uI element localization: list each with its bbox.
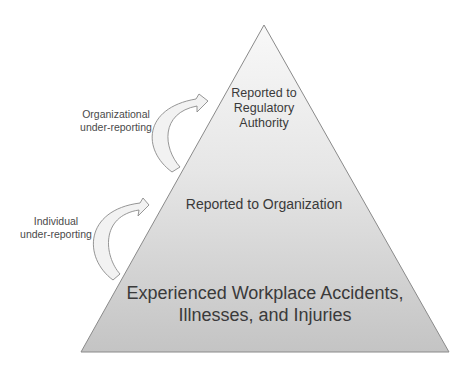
arrow-individual-line-1: Individual xyxy=(16,215,96,228)
tier-label-regulatory: Reported to Regulatory Authority xyxy=(214,86,314,131)
tier-regulatory-line-1: Reported to xyxy=(214,86,314,101)
arrow-label-individual: Individual under-reporting xyxy=(16,215,96,241)
tier-label-organization: Reported to Organization xyxy=(164,196,364,213)
arrow-organizational-line-1: Organizational xyxy=(74,108,158,121)
tier-experienced-line-1: Experienced Workplace Accidents, xyxy=(120,282,410,304)
tier-regulatory-line-2: Regulatory xyxy=(214,101,314,116)
diagram-canvas: Reported to Regulatory Authority Reporte… xyxy=(0,0,465,370)
arrow-individual-line-2: under-reporting xyxy=(16,228,96,241)
tier-organization-line-1: Reported to Organization xyxy=(164,196,364,213)
arrow-label-organizational: Organizational under-reporting xyxy=(74,108,158,134)
tier-label-experienced: Experienced Workplace Accidents, Illness… xyxy=(120,282,410,326)
tier-regulatory-line-3: Authority xyxy=(214,116,314,131)
tier-experienced-line-2: Illnesses, and Injuries xyxy=(120,304,410,326)
arrow-organizational-line-2: under-reporting xyxy=(74,121,158,134)
